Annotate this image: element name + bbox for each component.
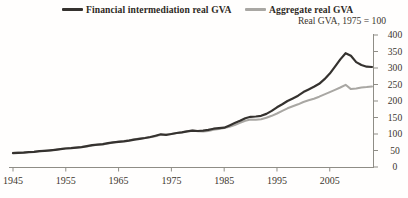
y-tick-label: 0: [393, 161, 398, 172]
y-tick-label: 150: [388, 112, 403, 123]
x-tick-label: 2005: [320, 175, 340, 186]
x-tick-label: 1995: [267, 175, 287, 186]
legend-swatch-financial-line: [62, 8, 83, 10]
y-tick-label: 350: [388, 46, 403, 57]
line-chart: 1945195519651975198519952005050100150200…: [0, 0, 408, 198]
x-tick-label: 1945: [3, 175, 23, 186]
legend-swatch-aggregate-line: [245, 8, 266, 10]
chart-figure: 1945195519651975198519952005050100150200…: [0, 0, 408, 198]
y-tick-label: 300: [388, 62, 403, 73]
series-line-aggregate: [13, 85, 372, 153]
x-tick-label: 1965: [109, 175, 129, 186]
series-line-financial-intermediation: [13, 53, 372, 153]
y-tick-label: 100: [388, 128, 403, 139]
legend-label-aggregate: Aggregate real GVA: [269, 4, 353, 15]
x-tick-label: 1975: [161, 175, 181, 186]
y-tick-label: 50: [390, 145, 400, 156]
legend-item-financial-intermediation: Financial intermediation real GVA: [62, 3, 232, 16]
x-tick-label: 1985: [214, 175, 234, 186]
chart-subtitle: Real GVA, 1975 = 100: [298, 15, 386, 26]
x-tick-label: 1955: [56, 175, 76, 186]
y-tick-label: 200: [388, 95, 403, 106]
y-tick-label: 400: [388, 29, 403, 40]
legend-label-financial: Financial intermediation real GVA: [86, 4, 232, 15]
y-tick-label: 250: [388, 79, 403, 90]
